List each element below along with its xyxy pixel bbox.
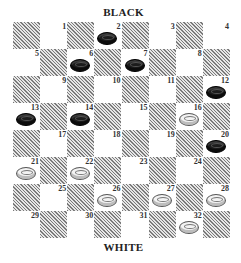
square-11[interactable]: 11: [149, 76, 176, 103]
square-number: 28: [221, 184, 229, 193]
white-checker-piece-icon[interactable]: [179, 221, 199, 234]
hatched-square: [13, 184, 40, 211]
hatched-square: [176, 76, 203, 103]
square-number: 11: [167, 76, 175, 85]
white-checker-piece-icon[interactable]: [152, 194, 172, 207]
square-number: 22: [85, 157, 93, 166]
hatched-square: [13, 22, 40, 49]
hatched-square: [94, 211, 121, 238]
square-26[interactable]: 26: [94, 184, 121, 211]
checkerboard: 1234567891011121314151617181920212223242…: [13, 22, 230, 238]
square-16[interactable]: 16: [176, 103, 203, 130]
black-checker-piece-icon[interactable]: [125, 59, 145, 72]
square-number: 9: [62, 76, 66, 85]
square-1[interactable]: 1: [40, 22, 67, 49]
hatched-square: [94, 49, 121, 76]
square-number: 20: [221, 130, 229, 139]
square-29[interactable]: 29: [13, 211, 40, 238]
square-9[interactable]: 9: [40, 76, 67, 103]
square-5[interactable]: 5: [13, 49, 40, 76]
hatched-square: [203, 211, 230, 238]
square-32[interactable]: 32: [176, 211, 203, 238]
black-checker-piece-icon[interactable]: [16, 113, 36, 126]
black-checker-piece-icon[interactable]: [70, 113, 90, 126]
square-3[interactable]: 3: [149, 22, 176, 49]
hatched-square: [122, 184, 149, 211]
square-22[interactable]: 22: [67, 157, 94, 184]
square-number: 3: [171, 22, 175, 31]
square-number: 21: [31, 157, 39, 166]
hatched-square: [67, 184, 94, 211]
square-6[interactable]: 6: [67, 49, 94, 76]
hatched-square: [67, 130, 94, 157]
square-28[interactable]: 28: [203, 184, 230, 211]
square-24[interactable]: 24: [176, 157, 203, 184]
hatched-square: [40, 49, 67, 76]
hatched-square: [13, 130, 40, 157]
black-side-label: BLACK: [3, 6, 241, 18]
square-15[interactable]: 15: [122, 103, 149, 130]
black-checker-piece-icon[interactable]: [206, 86, 226, 99]
square-number: 29: [31, 211, 39, 220]
square-19[interactable]: 19: [149, 130, 176, 157]
square-20[interactable]: 20: [203, 130, 230, 157]
square-number: 4: [225, 22, 229, 31]
hatched-square: [40, 211, 67, 238]
square-number: 6: [89, 49, 93, 58]
square-13[interactable]: 13: [13, 103, 40, 130]
square-number: 25: [58, 184, 66, 193]
white-checker-piece-icon[interactable]: [97, 194, 117, 207]
hatched-square: [40, 103, 67, 130]
white-checker-piece-icon[interactable]: [179, 113, 199, 126]
square-12[interactable]: 12: [203, 76, 230, 103]
hatched-square: [203, 103, 230, 130]
square-17[interactable]: 17: [40, 130, 67, 157]
square-23[interactable]: 23: [122, 157, 149, 184]
square-number: 13: [31, 103, 39, 112]
hatched-square: [176, 184, 203, 211]
square-number: 8: [198, 49, 202, 58]
square-4[interactable]: 4: [203, 22, 230, 49]
square-number: 24: [194, 157, 202, 166]
square-number: 30: [85, 211, 93, 220]
black-checker-piece-icon[interactable]: [206, 140, 226, 153]
square-18[interactable]: 18: [94, 130, 121, 157]
square-number: 12: [221, 76, 229, 85]
square-27[interactable]: 27: [149, 184, 176, 211]
hatched-square: [149, 103, 176, 130]
white-checker-piece-icon[interactable]: [206, 194, 226, 207]
square-number: 32: [194, 211, 202, 220]
black-checker-piece-icon[interactable]: [97, 32, 117, 45]
hatched-square: [122, 22, 149, 49]
hatched-square: [149, 49, 176, 76]
white-checker-piece-icon[interactable]: [70, 167, 90, 180]
square-30[interactable]: 30: [67, 211, 94, 238]
hatched-square: [149, 211, 176, 238]
square-number: 31: [140, 211, 148, 220]
square-8[interactable]: 8: [176, 49, 203, 76]
square-number: 17: [58, 130, 66, 139]
square-number: 14: [85, 103, 93, 112]
square-number: 27: [167, 184, 175, 193]
square-31[interactable]: 31: [122, 211, 149, 238]
white-checker-piece-icon[interactable]: [16, 167, 36, 180]
square-25[interactable]: 25: [40, 184, 67, 211]
square-2[interactable]: 2: [94, 22, 121, 49]
square-7[interactable]: 7: [122, 49, 149, 76]
square-number: 10: [112, 76, 120, 85]
square-number: 2: [116, 22, 120, 31]
square-21[interactable]: 21: [13, 157, 40, 184]
square-number: 15: [140, 103, 148, 112]
square-number: 16: [194, 103, 202, 112]
square-number: 19: [167, 130, 175, 139]
hatched-square: [94, 103, 121, 130]
hatched-square: [122, 130, 149, 157]
square-14[interactable]: 14: [67, 103, 94, 130]
black-checker-piece-icon[interactable]: [70, 59, 90, 72]
square-number: 1: [62, 22, 66, 31]
hatched-square: [122, 76, 149, 103]
hatched-square: [203, 157, 230, 184]
hatched-square: [203, 49, 230, 76]
hatched-square: [40, 157, 67, 184]
square-10[interactable]: 10: [94, 76, 121, 103]
